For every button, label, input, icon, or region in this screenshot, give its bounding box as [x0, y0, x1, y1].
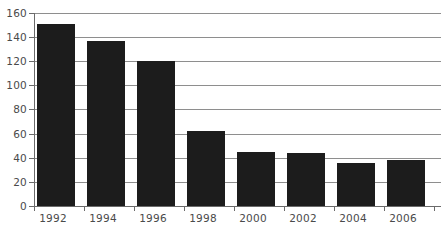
bar-1998 — [187, 131, 225, 206]
y-axis-line — [34, 13, 35, 207]
bar-1992 — [37, 24, 75, 206]
y-tick-40 — [29, 158, 34, 159]
x-axis-label-1998: 1998 — [181, 212, 225, 224]
y-axis-label-20: 20 — [13, 176, 27, 188]
x-axis-label-2002: 2002 — [281, 212, 325, 224]
y-axis-label-140: 140 — [6, 31, 27, 43]
x-axis-label-1992: 1992 — [31, 212, 75, 224]
x-axis-baseline — [34, 206, 441, 207]
bar-2000 — [237, 152, 275, 206]
gridline-160 — [34, 13, 441, 14]
x-tick-2 — [134, 207, 135, 211]
x-axis-label-2006: 2006 — [381, 212, 425, 224]
y-axis-label-0: 0 — [20, 200, 27, 212]
y-tick-140 — [29, 37, 34, 38]
y-tick-120 — [29, 61, 34, 62]
bar-chart: 160 140 120 100 80 60 40 20 0 1992 1994 … — [0, 0, 444, 235]
y-axis-label-120: 120 — [6, 55, 27, 67]
x-axis-label-1994: 1994 — [81, 212, 125, 224]
y-tick-20 — [29, 182, 34, 183]
bar-1996 — [137, 61, 175, 206]
y-tick-100 — [29, 85, 34, 86]
x-tick-4 — [234, 207, 235, 211]
bar-2002 — [287, 153, 325, 206]
bar-2004 — [337, 163, 375, 206]
y-tick-80 — [29, 109, 34, 110]
x-axis-label-1996: 1996 — [131, 212, 175, 224]
x-axis-label-2004: 2004 — [331, 212, 375, 224]
y-axis-label-160: 160 — [6, 7, 27, 19]
y-axis-label-100: 100 — [6, 79, 27, 91]
x-tick-8 — [434, 207, 435, 211]
x-axis-label-2000: 2000 — [231, 212, 275, 224]
plot-area — [34, 13, 441, 206]
x-tick-0 — [34, 207, 35, 211]
x-tick-6 — [334, 207, 335, 211]
x-tick-1 — [84, 207, 85, 211]
y-axis-label-40: 40 — [13, 152, 27, 164]
x-tick-3 — [184, 207, 185, 211]
gridline-140 — [34, 37, 441, 38]
y-tick-160 — [29, 13, 34, 14]
y-tick-60 — [29, 134, 34, 135]
bar-2006 — [387, 160, 425, 206]
y-axis-label-80: 80 — [13, 103, 27, 115]
x-tick-5 — [284, 207, 285, 211]
y-axis-label-60: 60 — [13, 128, 27, 140]
x-tick-7 — [384, 207, 385, 211]
bar-1994 — [87, 41, 125, 206]
y-axis-labels: 160 140 120 100 80 60 40 20 0 — [0, 0, 27, 235]
